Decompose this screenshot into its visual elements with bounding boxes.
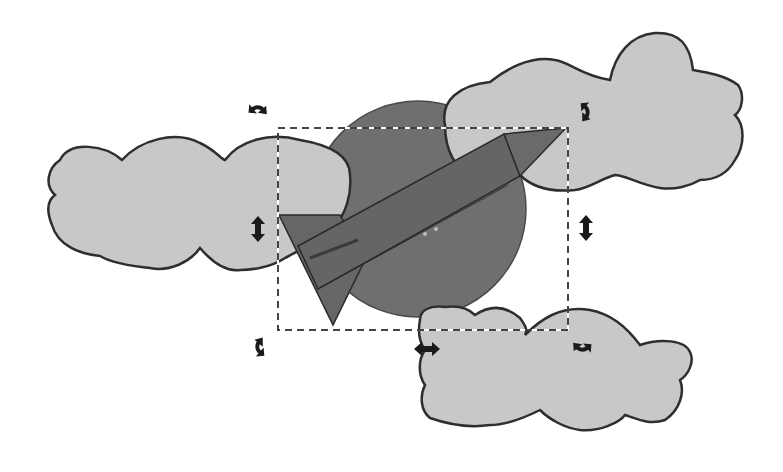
rotate-handle-bottom-left[interactable]: [247, 334, 273, 360]
rotate-handle-top-left[interactable]: [245, 97, 271, 123]
drawing-canvas[interactable]: [0, 0, 783, 472]
skew-handle-right[interactable]: [579, 215, 593, 241]
cloud-bottom-right[interactable]: [419, 307, 692, 431]
